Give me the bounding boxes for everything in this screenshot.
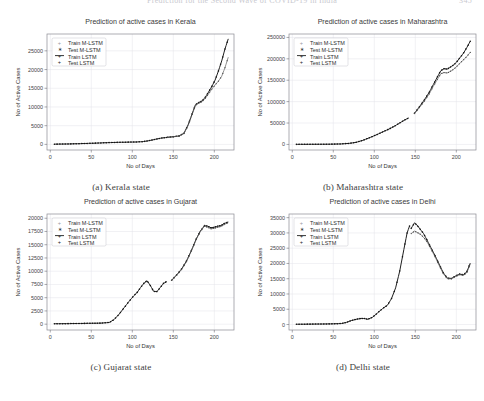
svg-text:Test M-LSTM: Test M-LSTM	[68, 227, 101, 233]
svg-text:+: +	[300, 53, 303, 59]
svg-text:+: +	[58, 239, 61, 245]
svg-text:Train LSTM: Train LSTM	[310, 54, 339, 60]
svg-text:Prediction of active cases in: Prediction of active cases in Gujarat	[84, 198, 197, 206]
svg-text:No of Active Cases: No of Active Cases	[257, 247, 263, 296]
svg-text:No of Days: No of Days	[126, 343, 155, 349]
svg-text:Test LSTM: Test LSTM	[310, 60, 337, 66]
svg-text:Train M-LSTM: Train M-LSTM	[310, 40, 345, 46]
svg-text:∗: ∗	[300, 226, 304, 232]
svg-text:15000: 15000	[270, 276, 285, 282]
svg-text:150: 150	[411, 334, 420, 340]
svg-text:Train LSTM: Train LSTM	[68, 54, 97, 60]
svg-text:10000: 10000	[28, 104, 43, 110]
svg-text:20000: 20000	[28, 67, 43, 73]
svg-text:+: +	[58, 53, 61, 59]
svg-text:0: 0	[291, 334, 294, 340]
svg-text:15000: 15000	[28, 85, 43, 91]
figure-cell-c: Prediction of active cases in Gujarat025…	[0, 192, 242, 372]
figure-cell-a: Prediction of active cases in Kerala0500…	[0, 12, 242, 192]
svg-text:0: 0	[40, 321, 43, 327]
plot-area-kerala: Prediction of active cases in Kerala0500…	[0, 12, 242, 180]
svg-text:No of Days: No of Days	[368, 343, 397, 349]
svg-text:50000: 50000	[270, 120, 285, 126]
svg-text:No of Days: No of Days	[368, 163, 397, 169]
svg-text:No of Active Cases: No of Active Cases	[15, 67, 21, 116]
svg-text:0: 0	[40, 141, 43, 147]
svg-text:200: 200	[452, 154, 461, 160]
chart-svg-delhi: Prediction of active cases in Delhi05000…	[242, 192, 484, 360]
svg-text:∗: ∗	[58, 226, 62, 232]
figure-caption-a: (a) Kerala state	[0, 180, 242, 192]
svg-text:Test LSTM: Test LSTM	[68, 60, 95, 66]
figure-caption-b: (b) Maharashtra state	[242, 180, 484, 192]
figure-caption-d: (d) Delhi state	[242, 360, 484, 372]
svg-text:No of Active Cases: No of Active Cases	[15, 247, 21, 296]
svg-text:30000: 30000	[270, 230, 285, 236]
svg-text:50: 50	[330, 334, 336, 340]
svg-text:No of Days: No of Days	[126, 163, 155, 169]
svg-text:Train LSTM: Train LSTM	[68, 234, 97, 240]
svg-text:2500: 2500	[31, 308, 43, 314]
svg-text:+: +	[300, 239, 303, 245]
figure-cell-d: Prediction of active cases in Delhi05000…	[242, 192, 484, 372]
chart-svg-maharashtra: Prediction of active cases in Maharashtr…	[242, 12, 484, 180]
plot-area-delhi: Prediction of active cases in Delhi05000…	[242, 192, 484, 360]
chart-panel-gujarat: Prediction of active cases in Gujarat025…	[0, 192, 242, 360]
svg-text:100: 100	[370, 154, 379, 160]
figure-grid: Prediction of active cases in Kerala0500…	[0, 12, 484, 372]
svg-text:Test M-LSTM: Test M-LSTM	[310, 227, 343, 233]
svg-text:5000: 5000	[31, 295, 43, 301]
svg-text:50: 50	[330, 154, 336, 160]
chart-svg-kerala: Prediction of active cases in Kerala0500…	[0, 12, 242, 180]
svg-text:150: 150	[411, 154, 420, 160]
chart-panel-kerala: Prediction of active cases in Kerala0500…	[0, 12, 242, 180]
svg-text:+: +	[300, 40, 303, 46]
svg-text:200: 200	[452, 334, 461, 340]
svg-text:20000: 20000	[270, 260, 285, 266]
chart-panel-delhi: Prediction of active cases in Delhi05000…	[242, 192, 484, 360]
chart-panel-maharashtra: Prediction of active cases in Maharashtr…	[242, 12, 484, 180]
svg-text:50: 50	[88, 334, 94, 340]
page-number: 345	[459, 0, 472, 5]
svg-text:Test M-LSTM: Test M-LSTM	[68, 47, 101, 53]
page-running-header: Prediction for the Second Wave of COVID-…	[0, 0, 484, 6]
svg-text:15000: 15000	[28, 242, 43, 248]
svg-text:200: 200	[210, 334, 219, 340]
svg-text:100: 100	[128, 334, 137, 340]
svg-text:Test LSTM: Test LSTM	[310, 240, 337, 246]
svg-text:7500: 7500	[31, 281, 43, 287]
figure-caption-c: (c) Gujarat state	[0, 360, 242, 372]
svg-text:+: +	[300, 59, 303, 65]
svg-text:12500: 12500	[28, 255, 43, 261]
svg-text:10000: 10000	[28, 268, 43, 274]
svg-text:25000: 25000	[28, 48, 43, 54]
svg-text:35000: 35000	[270, 215, 285, 221]
svg-text:∗: ∗	[300, 46, 304, 52]
chart-svg-gujarat: Prediction of active cases in Gujarat025…	[0, 192, 242, 360]
svg-text:200: 200	[210, 154, 219, 160]
svg-text:Test M-LSTM: Test M-LSTM	[310, 47, 343, 53]
svg-text:Test LSTM: Test LSTM	[68, 240, 95, 246]
svg-text:0: 0	[49, 334, 52, 340]
plot-area-maharashtra: Prediction of active cases in Maharashtr…	[242, 12, 484, 180]
svg-text:150: 150	[169, 154, 178, 160]
svg-text:0: 0	[291, 154, 294, 160]
svg-text:50: 50	[88, 154, 94, 160]
svg-text:250000: 250000	[267, 34, 285, 40]
svg-text:Train LSTM: Train LSTM	[310, 234, 339, 240]
svg-text:Prediction of active cases in: Prediction of active cases in Delhi	[329, 198, 435, 206]
svg-text:150000: 150000	[267, 77, 285, 83]
running-title: Prediction for the Second Wave of COVID-…	[0, 0, 484, 5]
svg-text:10000: 10000	[270, 291, 285, 297]
svg-text:150: 150	[169, 334, 178, 340]
svg-text:0: 0	[49, 154, 52, 160]
figure-row-bottom: Prediction of active cases in Gujarat025…	[0, 192, 484, 372]
plot-area-gujarat: Prediction of active cases in Gujarat025…	[0, 192, 242, 360]
svg-text:+: +	[58, 220, 61, 226]
svg-text:+: +	[300, 233, 303, 239]
svg-text:20000: 20000	[28, 215, 43, 221]
svg-text:100: 100	[128, 154, 137, 160]
svg-text:100000: 100000	[267, 99, 285, 105]
svg-text:+: +	[58, 59, 61, 65]
svg-text:25000: 25000	[270, 245, 285, 251]
